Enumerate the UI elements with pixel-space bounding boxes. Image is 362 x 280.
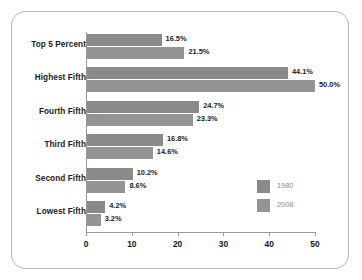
bar-value-label: 8.6% <box>129 180 146 192</box>
chart-category-row: Highest Fifth44.1%50.0% <box>12 65 350 99</box>
category-bar-group: 16.5%21.5% <box>86 32 336 66</box>
bar-1980-third-fifth <box>86 134 163 146</box>
x-axis-tick-label: 30 <box>208 239 238 249</box>
x-axis-tick-label: 0 <box>71 239 101 249</box>
category-label: Lowest Fifth <box>0 207 86 216</box>
bar-value-label: 16.5% <box>166 33 187 45</box>
category-label: Top 5 Percent <box>0 40 86 49</box>
bar-value-label: 24.7% <box>203 100 224 112</box>
category-label: Highest Fifth <box>0 73 86 82</box>
bar-1980-fourth-fifth <box>86 101 199 113</box>
x-axis-tick <box>132 232 133 236</box>
x-axis-tick <box>86 232 87 236</box>
category-bar-group: 44.1%50.0% <box>86 65 336 99</box>
bar-1980-lowest-fifth <box>86 201 105 213</box>
category-label: Second Fifth <box>0 174 86 183</box>
legend-label: 2008 <box>277 200 293 209</box>
legend-swatch-1980 <box>257 180 270 193</box>
bar-value-label: 3.2% <box>105 213 122 225</box>
x-axis-tick-label: 10 <box>117 239 147 249</box>
chart-category-row: Fourth Fifth24.7%23.3% <box>12 99 350 133</box>
bar-value-label: 21.5% <box>188 46 209 58</box>
x-axis-tick <box>269 232 270 236</box>
legend-label: 1980 <box>277 181 293 190</box>
bar-1980-highest-fifth <box>86 67 288 79</box>
bar-value-label: 50.0% <box>319 79 340 91</box>
x-axis-tick <box>178 232 179 236</box>
x-axis-tick <box>315 232 316 236</box>
category-bar-group: 16.8%14.6% <box>86 132 336 166</box>
chart-plot-area: Top 5 Percent16.5%21.5%Highest Fifth44.1… <box>12 12 350 270</box>
bar-value-label: 16.8% <box>167 133 188 145</box>
legend-swatch-2008 <box>257 199 270 212</box>
bar-2008-highest-fifth <box>86 80 315 92</box>
bar-value-label: 14.6% <box>157 146 178 158</box>
bar-2008-third-fifth <box>86 147 153 159</box>
bar-value-label: 44.1% <box>292 66 313 78</box>
bar-1980-top-5-percent <box>86 34 162 46</box>
category-label: Third Fifth <box>0 140 86 149</box>
x-axis-tick <box>223 232 224 236</box>
chart-category-row: Top 5 Percent16.5%21.5% <box>12 32 350 66</box>
category-label: Fourth Fifth <box>0 107 86 116</box>
legend-entry: 1980 <box>257 178 333 197</box>
bar-value-label: 4.2% <box>109 200 126 212</box>
bar-value-label: 23.3% <box>197 113 218 125</box>
bar-2008-second-fifth <box>86 181 125 193</box>
bar-1980-second-fifth <box>86 168 133 180</box>
bar-2008-fourth-fifth <box>86 114 193 126</box>
legend-entry: 2008 <box>257 197 333 216</box>
bar-value-label: 10.2% <box>137 167 158 179</box>
chart-legend: 19802008 <box>257 178 333 216</box>
x-axis-line <box>86 232 315 233</box>
chart-card: Top 5 Percent16.5%21.5%Highest Fifth44.1… <box>11 11 349 269</box>
chart-category-row: Third Fifth16.8%14.6% <box>12 132 350 166</box>
x-axis-tick-label: 20 <box>163 239 193 249</box>
category-bar-group: 24.7%23.3% <box>86 99 336 133</box>
bar-2008-top-5-percent <box>86 47 184 59</box>
x-axis-tick-label: 50 <box>300 239 330 249</box>
y-axis-line <box>86 32 87 233</box>
x-axis-tick-label: 40 <box>254 239 284 249</box>
bar-2008-lowest-fifth <box>86 214 101 226</box>
